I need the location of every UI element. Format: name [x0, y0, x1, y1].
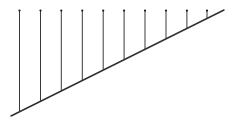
figure-background [0, 0, 239, 121]
vertical-7-cap-dot [144, 10, 146, 12]
vertical-9-cap-dot [186, 10, 188, 12]
figure-canvas [0, 0, 239, 121]
vertical-5-cap-dot [102, 10, 104, 12]
vertical-6-cap-dot [123, 10, 125, 12]
vertical-3-cap-dot [60, 10, 62, 12]
vertical-8-cap-dot [165, 10, 167, 12]
vertical-2-cap-dot [39, 10, 41, 12]
vertical-4-cap-dot [81, 10, 83, 12]
vertical-1-cap-dot [18, 10, 20, 12]
line-diagram [0, 0, 239, 121]
vertical-10-cap-dot [206, 10, 208, 12]
